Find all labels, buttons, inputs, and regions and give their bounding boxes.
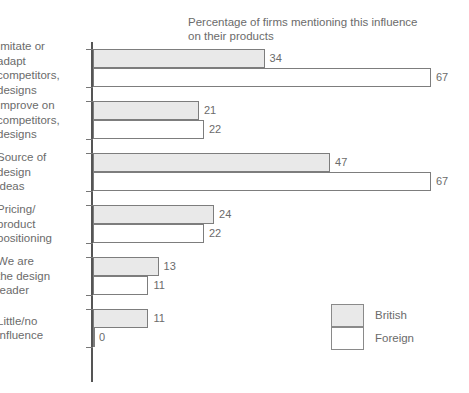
bar-row: 21 bbox=[93, 101, 467, 120]
category-label: We are the design leader bbox=[0, 254, 97, 298]
bar-british[interactable] bbox=[93, 49, 265, 68]
category-label: Source of design ideas bbox=[0, 150, 97, 194]
bar-group: 1311 bbox=[93, 257, 467, 295]
y-axis-tick bbox=[86, 191, 93, 192]
bar-value-label: 67 bbox=[436, 174, 448, 189]
legend-label: British bbox=[375, 308, 407, 322]
y-axis-tick bbox=[86, 309, 93, 310]
y-axis-tick bbox=[86, 295, 93, 296]
legend-swatch-british bbox=[331, 304, 364, 327]
bar-row: 34 bbox=[93, 49, 467, 68]
bar-foreign[interactable] bbox=[93, 276, 148, 295]
y-axis-tick bbox=[86, 49, 93, 50]
bar-row: 11 bbox=[93, 276, 467, 295]
bar-row: 67 bbox=[93, 68, 467, 87]
y-axis-tick bbox=[86, 139, 93, 140]
chart-title: Percentage of firms mentioning this infl… bbox=[188, 15, 458, 43]
bar-foreign[interactable] bbox=[93, 328, 95, 347]
bar-row: 24 bbox=[93, 205, 467, 224]
bar-group: 4767 bbox=[93, 153, 467, 191]
bar-row: 13 bbox=[93, 257, 467, 276]
y-axis-tick bbox=[86, 347, 93, 348]
bar-value-label: 22 bbox=[209, 226, 221, 241]
y-axis-tick bbox=[86, 257, 93, 258]
category-label: Little/no influence bbox=[0, 314, 97, 343]
bar-row: 47 bbox=[93, 153, 467, 172]
category-label: Imitate or adapt competitors, designs bbox=[0, 39, 97, 97]
y-axis-tick bbox=[86, 87, 93, 88]
bar-british[interactable] bbox=[93, 257, 159, 276]
bar-value-label: 0 bbox=[99, 330, 105, 345]
bar-value-label: 21 bbox=[204, 103, 216, 118]
bar-row: 22 bbox=[93, 120, 467, 139]
y-axis-tick bbox=[86, 205, 93, 206]
category-label: Pricing/ product positioning bbox=[0, 202, 97, 246]
bar-value-label: 47 bbox=[335, 155, 347, 170]
bar-row: 11 bbox=[93, 309, 467, 328]
bar-british[interactable] bbox=[93, 153, 330, 172]
bar-group: 2422 bbox=[93, 205, 467, 243]
bar-foreign[interactable] bbox=[93, 68, 431, 87]
y-axis-tick bbox=[86, 153, 93, 154]
bar-row: 22 bbox=[93, 224, 467, 243]
bar-british[interactable] bbox=[93, 309, 148, 328]
bar-value-label: 22 bbox=[209, 122, 221, 137]
bar-foreign[interactable] bbox=[93, 120, 204, 139]
bar-value-label: 13 bbox=[164, 259, 176, 274]
bar-british[interactable] bbox=[93, 101, 199, 120]
bar-value-label: 34 bbox=[270, 51, 282, 66]
bar-row: 67 bbox=[93, 172, 467, 191]
y-axis-tick bbox=[86, 101, 93, 102]
y-axis-tick bbox=[86, 243, 93, 244]
bar-value-label: 24 bbox=[219, 207, 231, 222]
bar-group: 3467 bbox=[93, 49, 467, 87]
legend-label: Foreign bbox=[375, 331, 414, 345]
bar-value-label: 11 bbox=[153, 278, 164, 293]
bar-value-label: 11 bbox=[153, 311, 164, 326]
bar-group: 2122 bbox=[93, 101, 467, 139]
category-label: Improve on competitors, designs bbox=[0, 98, 97, 142]
bar-value-label: 67 bbox=[436, 70, 448, 85]
bar-chart: Percentage of firms mentioning this infl… bbox=[0, 0, 469, 393]
bar-foreign[interactable] bbox=[93, 172, 431, 191]
bar-foreign[interactable] bbox=[93, 224, 204, 243]
legend-swatch-foreign bbox=[331, 327, 364, 350]
bar-british[interactable] bbox=[93, 205, 214, 224]
